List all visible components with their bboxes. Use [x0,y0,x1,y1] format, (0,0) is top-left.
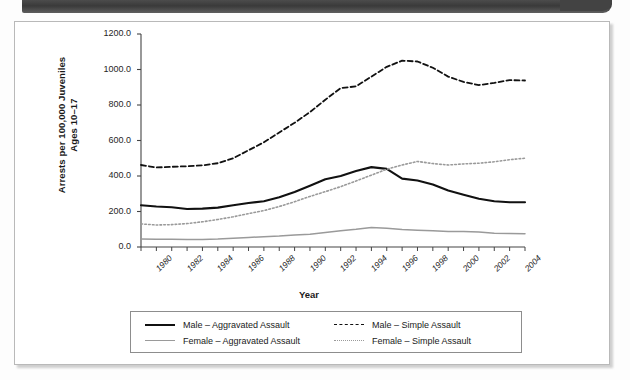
y-axis-tick-label: 200.0 [85,206,131,216]
legend-row-2: Female – Aggravated Assault Female – Sim… [135,333,517,349]
legend-swatch-solid-dark-line-icon [145,320,175,330]
legend-item-male-aggravated-assault: Male – Aggravated Assault [135,320,328,330]
series-line-2 [141,61,525,168]
legend-row-1: Male – Aggravated Assault Male – Simple … [135,317,517,333]
scanned-page: Arrests per 100,000 Juveniles Ages 10–17… [0,0,630,380]
y-axis-title-line-1: Arrests per 100,000 Juveniles [56,35,68,215]
page-top-dark-bar [22,0,612,13]
legend-item-female-simple-assault: Female – Simple Assault [328,336,517,346]
x-axis-title: Year [144,289,474,300]
legend-swatch-dashed-dark-line-icon [334,320,364,330]
legend-swatch-dotted-gray-line-icon [334,336,364,346]
legend-label-male-simple-assault: Male – Simple Assault [372,320,461,330]
legend-label-female-aggravated-assault: Female – Aggravated Assault [183,336,300,346]
legend-item-female-aggravated-assault: Female – Aggravated Assault [135,336,328,346]
y-axis-tick-label: 800.0 [85,99,131,109]
y-axis-tick-label: 0.0 [85,241,131,251]
y-axis-tick-label: 600.0 [85,135,131,145]
series-line-3 [141,227,525,239]
y-axis-tick-label: 400.0 [85,170,131,180]
y-axis-tick-label: 1000.0 [85,64,131,74]
series-line-4 [141,158,525,225]
y-axis-title-line-2: Ages 10–17 [68,35,80,215]
series-line-1 [141,167,525,209]
chart-legend: Male – Aggravated Assault Male – Simple … [130,311,522,353]
page-top-dark-bar-rounded-end [560,0,612,11]
y-axis-tick-label: 1200.0 [85,28,131,38]
chart: Arrests per 100,000 Juveniles Ages 10–17… [14,21,608,363]
legend-label-male-aggravated-assault: Male – Aggravated Assault [183,320,290,330]
legend-label-female-simple-assault: Female – Simple Assault [372,336,471,346]
y-axis-title: Arrests per 100,000 Juveniles Ages 10–17 [56,35,80,215]
legend-swatch-solid-gray-line-icon [145,336,175,346]
legend-item-male-simple-assault: Male – Simple Assault [328,320,517,330]
